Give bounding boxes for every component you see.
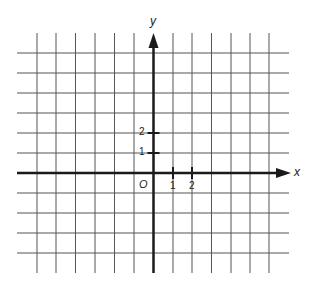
x-axis-arrow-icon	[276, 168, 291, 178]
x-tick-label-1: 1	[170, 180, 176, 191]
y-axis-label: y	[150, 14, 156, 28]
y-axis-arrow-icon	[149, 33, 159, 48]
origin-label: O	[139, 178, 148, 190]
x-axis-label: x	[294, 165, 300, 179]
x-tick-label-2: 2	[189, 180, 195, 191]
coordinate-grid	[0, 0, 314, 285]
y-tick-label-1: 1	[139, 146, 145, 157]
y-tick-label-2: 2	[139, 126, 145, 137]
